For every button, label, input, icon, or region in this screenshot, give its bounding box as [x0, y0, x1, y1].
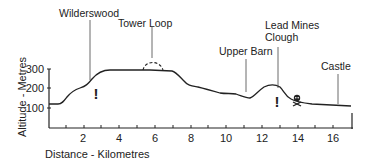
y-tick-labels: 300 200 100	[26, 63, 44, 114]
elevation-profile-chart: 300 200 100 2 4 6 8 10 12 14 16 Distance…	[0, 0, 371, 166]
label-lead-mines-line2: Clough	[265, 31, 298, 43]
x-tick-2: 2	[80, 132, 86, 144]
label-wilderswood: Wilderswood	[59, 7, 119, 19]
caution-icon: !	[275, 93, 280, 110]
label-upper-barn: Upper Barn	[219, 45, 273, 57]
x-axis-title: Distance - Kilometres	[45, 148, 150, 160]
y-tick-200: 200	[26, 82, 44, 94]
label-lead-mines-line1: Lead Mines	[265, 19, 319, 31]
x-tick-4: 4	[116, 132, 122, 144]
x-tick-labels: 2 4 6 8 10 12 14 16	[80, 132, 339, 144]
x-tick-10: 10	[220, 132, 232, 144]
x-tick-14: 14	[292, 132, 304, 144]
y-tick-300: 300	[26, 63, 44, 75]
x-tick-6: 6	[152, 132, 158, 144]
caution-icon: !	[94, 85, 99, 102]
x-tick-12: 12	[256, 132, 268, 144]
y-tick-100: 100	[26, 102, 44, 114]
x-tick-8: 8	[188, 132, 194, 144]
y-axis-title: Altitude - Metres	[16, 56, 28, 137]
label-tower-loop: Tower Loop	[118, 17, 172, 29]
label-castle: Castle	[321, 60, 351, 72]
x-tick-16: 16	[327, 132, 339, 144]
tower-loop-dashed	[143, 63, 163, 71]
